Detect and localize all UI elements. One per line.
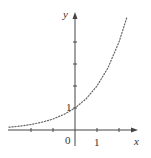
chart: y x 0 1 1 <box>0 0 151 158</box>
x-axis-label: x <box>133 135 139 147</box>
origin-label: 0 <box>65 134 71 146</box>
y-tick-label-1: 1 <box>66 101 72 113</box>
x-tick-label-1: 1 <box>94 136 100 148</box>
y-axis-label: y <box>62 8 68 20</box>
x-axis-arrow-icon <box>131 128 138 133</box>
y-axis-arrow-icon <box>73 12 78 19</box>
